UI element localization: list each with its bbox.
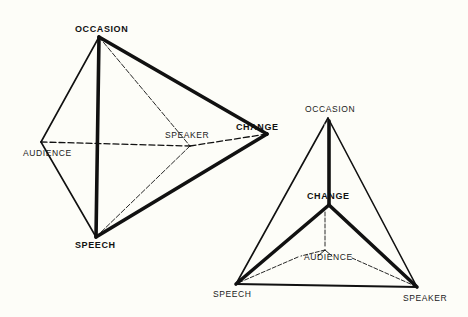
diagram-canvas: OCCASION AUDIENCE SPEAKER CHANGE SPEECH …: [0, 0, 468, 317]
right-label-occasion: OCCASION: [305, 105, 355, 114]
left-label-occasion: OCCASION: [75, 25, 128, 34]
edge-audience-speaker: [41, 142, 190, 146]
edge-speech-change: [96, 134, 267, 237]
edge-change-speech: [236, 205, 329, 284]
edge-occasion-speech: [96, 37, 99, 237]
tetrahedron-drawing: [0, 0, 468, 317]
left-tetrahedron: [41, 37, 267, 237]
left-label-audience: AUDIENCE: [23, 149, 72, 158]
edge-speech-speaker: [96, 146, 190, 237]
right-label-speech: SPEECH: [213, 290, 252, 299]
right-label-audience: AUDIENCE: [304, 253, 353, 262]
left-label-change: CHANGE: [236, 123, 279, 132]
right-label-change: CHANGE: [307, 192, 350, 201]
edge-audience-speech: [238, 257, 298, 283]
left-label-speaker: SPEAKER: [165, 131, 209, 140]
left-label-speech: SPEECH: [75, 241, 116, 250]
edge-speech-speaker: [236, 284, 417, 287]
edge-occasion-change: [99, 37, 267, 134]
edge-audience-speaker: [352, 258, 415, 286]
right-label-speaker: SPEAKER: [403, 294, 447, 303]
edge-occasion-audience: [41, 37, 99, 142]
edge-change-speaker: [329, 205, 417, 287]
